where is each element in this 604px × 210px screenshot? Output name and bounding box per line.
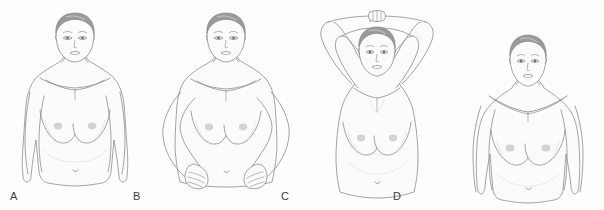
panel-label-b: B [133, 191, 141, 202]
illustration-arms-at-sides [0, 0, 151, 210]
panel-b: B [151, 0, 302, 210]
illustration-arms-raised-overhead [302, 0, 453, 210]
illustration-leaning-forward [453, 0, 604, 210]
illustration-hands-on-hips [151, 0, 302, 210]
areola-left [506, 145, 515, 152]
areola-right [239, 124, 247, 131]
areola-left [357, 135, 365, 142]
panel-d: D [453, 0, 604, 210]
areola-right [88, 123, 96, 130]
panel-label-a: A [10, 191, 18, 202]
areola-right [389, 135, 397, 142]
panel-a: A [0, 0, 151, 210]
areola-left [54, 123, 62, 130]
areola-left [205, 124, 213, 131]
areola-right [542, 145, 551, 152]
head-arms-at-sides [56, 13, 95, 62]
panel-label-d: D [393, 191, 401, 202]
figure-plate: A [0, 0, 604, 210]
head-hands-on-hips [207, 13, 246, 62]
panel-c: C [302, 0, 453, 210]
head-leaning-forward [510, 35, 547, 86]
panel-label-c: C [281, 191, 289, 202]
